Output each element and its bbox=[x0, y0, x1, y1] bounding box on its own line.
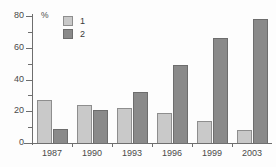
y-axis-tick-label: 0 bbox=[0, 138, 24, 147]
x-axis-tick bbox=[112, 143, 113, 147]
bar-series-2-1996 bbox=[173, 65, 188, 143]
bar-series-2-1987 bbox=[53, 129, 68, 143]
y-axis-tick bbox=[26, 111, 32, 112]
bar-group bbox=[237, 16, 268, 143]
x-axis-tick-label: 2003 bbox=[226, 148, 276, 158]
bar-group bbox=[117, 16, 148, 143]
y-axis-minor-tick bbox=[28, 32, 32, 33]
bar-series-1-1987 bbox=[37, 100, 52, 143]
bar-series-1-2003 bbox=[237, 130, 252, 143]
bar-series-1-1996 bbox=[157, 113, 172, 143]
legend-label-series-1: 1 bbox=[80, 16, 85, 26]
y-axis-tick-label: 60 bbox=[0, 43, 24, 52]
legend-label-series-2: 2 bbox=[80, 29, 85, 39]
chart-legend: 1 2 bbox=[63, 14, 85, 40]
bar-series-1-1993 bbox=[117, 108, 132, 143]
y-axis-tick-label: 40 bbox=[0, 75, 24, 84]
bar-series-1-1990 bbox=[77, 105, 92, 143]
y-axis-labels: 020406080 bbox=[0, 0, 24, 167]
bar-group bbox=[197, 16, 228, 143]
x-axis-tick bbox=[192, 143, 193, 147]
y-axis-tick bbox=[26, 16, 32, 17]
legend-item-1: 1 bbox=[63, 14, 85, 27]
y-axis-minor-tick bbox=[28, 64, 32, 65]
bar-chart: 020406080 % 1 2 198719901993199619992003 bbox=[0, 0, 276, 167]
bar-series-2-1993 bbox=[133, 92, 148, 143]
bar-group bbox=[157, 16, 188, 143]
x-axis-line bbox=[24, 143, 272, 144]
bar-series-2-1999 bbox=[213, 38, 228, 143]
y-axis-tick-label: 20 bbox=[0, 106, 24, 115]
x-axis-tick bbox=[72, 143, 73, 147]
y-axis-tick-label: 80 bbox=[0, 11, 24, 20]
y-axis-minor-tick bbox=[28, 127, 32, 128]
bar-series-1-1999 bbox=[197, 121, 212, 143]
bar-series-2-1990 bbox=[93, 110, 108, 143]
legend-swatch-series-2 bbox=[63, 29, 73, 39]
x-axis-tick bbox=[232, 143, 233, 147]
bar-series-2-2003 bbox=[253, 19, 268, 143]
y-axis-tick bbox=[26, 143, 32, 144]
y-axis-tick bbox=[26, 80, 32, 81]
x-axis-tick bbox=[152, 143, 153, 147]
y-axis-tick bbox=[26, 48, 32, 49]
y-axis-minor-tick bbox=[28, 95, 32, 96]
legend-item-2: 2 bbox=[63, 27, 85, 40]
legend-swatch-series-1 bbox=[63, 16, 73, 26]
